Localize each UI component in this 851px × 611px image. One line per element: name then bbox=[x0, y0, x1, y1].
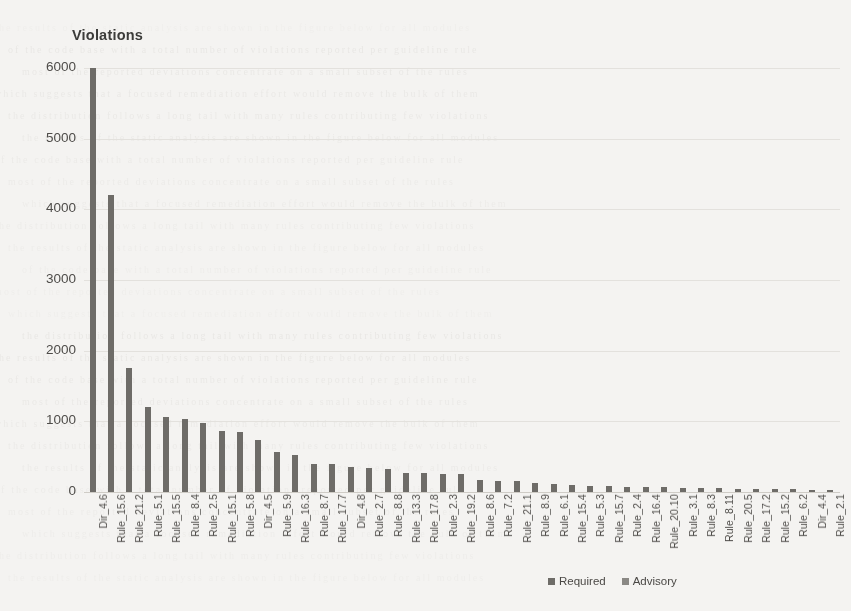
bar-Rule_17.2 bbox=[753, 489, 759, 492]
x-tick-Rule_2.7: Rule_2.7 bbox=[373, 494, 385, 537]
x-tick-Dir_4.6: Dir_4.6 bbox=[97, 494, 109, 529]
plot-area bbox=[84, 68, 840, 492]
x-tick-Rule_8.7: Rule_8.7 bbox=[318, 494, 330, 537]
x-tick-Dir_4.5: Dir_4.5 bbox=[262, 494, 274, 529]
x-tick-Rule_17.7: Rule_17.7 bbox=[336, 494, 348, 543]
bar-Rule_8.6 bbox=[477, 480, 483, 492]
bar-Rule_17.7 bbox=[329, 464, 335, 492]
x-tick-Rule_2.3: Rule_2.3 bbox=[447, 494, 459, 537]
bar-Rule_2.3 bbox=[440, 474, 446, 492]
x-tick-Rule_5.3: Rule_5.3 bbox=[594, 494, 606, 537]
bar-Rule_15.7 bbox=[606, 486, 612, 492]
y-tick-5000: 5000 bbox=[14, 130, 76, 145]
bar-Rule_5.8 bbox=[237, 432, 243, 492]
x-tick-Rule_17.2: Rule_17.2 bbox=[760, 494, 772, 543]
x-tick-Rule_16.4: Rule_16.4 bbox=[650, 494, 662, 543]
x-tick-Rule_8.11: Rule_8.11 bbox=[723, 494, 735, 542]
bar-Rule_15.2 bbox=[772, 489, 778, 492]
bar-Rule_7.2 bbox=[495, 481, 501, 492]
bar-Rule_21.1 bbox=[514, 481, 520, 492]
y-tick-4000: 4000 bbox=[14, 200, 76, 215]
x-tick-Rule_21.2: Rule_21.2 bbox=[133, 494, 145, 543]
bar-Rule_3.1 bbox=[680, 488, 686, 492]
x-tick-Rule_21.1: Rule_21.1 bbox=[521, 494, 533, 543]
x-tick-Rule_17.8: Rule_17.8 bbox=[428, 494, 440, 543]
bar-Dir_4.8 bbox=[348, 467, 354, 492]
bar-Rule_15.5 bbox=[163, 417, 169, 492]
x-tick-Rule_13.3: Rule_13.3 bbox=[410, 494, 422, 543]
y-tick-2000: 2000 bbox=[14, 342, 76, 357]
x-tick-Rule_19.2: Rule_19.2 bbox=[465, 494, 477, 543]
bar-Rule_2.7 bbox=[366, 468, 372, 492]
bar-Rule_6.1 bbox=[551, 484, 557, 492]
bar-Rule_2.5 bbox=[200, 423, 206, 492]
x-tick-Rule_15.7: Rule_15.7 bbox=[613, 494, 625, 543]
bar-Rule_8.8 bbox=[385, 469, 391, 492]
x-tick-Rule_20.5: Rule_20.5 bbox=[742, 494, 754, 543]
bar-Rule_2.4 bbox=[624, 487, 630, 492]
bar-Rule_15.4 bbox=[569, 485, 575, 492]
y-tick-3000: 3000 bbox=[14, 271, 76, 286]
bar-Rule_5.3 bbox=[587, 486, 593, 493]
bar-Rule_8.4 bbox=[182, 419, 188, 492]
x-tick-Rule_15.5: Rule_15.5 bbox=[170, 494, 182, 543]
x-tick-Rule_5.9: Rule_5.9 bbox=[281, 494, 293, 537]
x-tick-Rule_5.8: Rule_5.8 bbox=[244, 494, 256, 537]
bar-Rule_16.3 bbox=[292, 455, 298, 492]
x-tick-Rule_8.9: Rule_8.9 bbox=[539, 494, 551, 537]
x-tick-Dir_4.8: Dir_4.8 bbox=[355, 494, 367, 529]
bar-Rule_5.1 bbox=[145, 407, 151, 492]
y-tick-6000: 6000 bbox=[14, 59, 76, 74]
x-tick-Rule_15.2: Rule_15.2 bbox=[779, 494, 791, 543]
bar-Rule_20.5 bbox=[735, 489, 741, 492]
x-tick-Rule_6.1: Rule_6.1 bbox=[558, 494, 570, 537]
y-tick-1000: 1000 bbox=[14, 412, 76, 427]
x-tick-Rule_2.5: Rule_2.5 bbox=[207, 494, 219, 537]
bar-Rule_17.8 bbox=[421, 473, 427, 492]
legend-swatch-required bbox=[548, 578, 555, 585]
bar-Rule_6.2 bbox=[790, 489, 796, 492]
bars-group bbox=[84, 68, 840, 492]
x-tick-Rule_15.4: Rule_15.4 bbox=[576, 494, 588, 543]
legend-item-advisory: Advisory bbox=[622, 575, 677, 587]
bar-Dir_4.6 bbox=[90, 68, 96, 492]
bar-Rule_5.9 bbox=[274, 452, 280, 492]
bar-Rule_2.1 bbox=[827, 490, 833, 492]
x-tick-Dir_4.4: Dir_4.4 bbox=[816, 494, 828, 529]
bar-Dir_4.5 bbox=[255, 440, 261, 492]
x-tick-Rule_2.1: Rule_2.1 bbox=[834, 494, 846, 537]
bar-Rule_8.7 bbox=[311, 464, 317, 492]
bar-Rule_15.1 bbox=[219, 431, 225, 492]
x-tick-Rule_7.2: Rule_7.2 bbox=[502, 494, 514, 537]
bar-Rule_21.2 bbox=[126, 368, 132, 492]
x-tick-Rule_8.8: Rule_8.8 bbox=[392, 494, 404, 537]
legend-label-required: Required bbox=[559, 575, 606, 587]
x-tick-Rule_15.6: Rule_15.6 bbox=[115, 494, 127, 543]
bar-Rule_8.9 bbox=[532, 483, 538, 492]
gridline-0 bbox=[84, 492, 840, 493]
bar-Rule_19.2 bbox=[458, 474, 464, 492]
y-tick-0: 0 bbox=[14, 483, 76, 498]
bar-Rule_13.3 bbox=[403, 473, 409, 492]
x-axis-tick-labels: Dir_4.6Rule_15.6Rule_21.2Rule_5.1Rule_15… bbox=[84, 494, 840, 580]
bar-Rule_20.10 bbox=[661, 487, 667, 492]
bar-Rule_8.3 bbox=[698, 488, 704, 492]
x-tick-Rule_8.3: Rule_8.3 bbox=[705, 494, 717, 537]
bar-Rule_15.6 bbox=[108, 195, 114, 492]
bar-Rule_8.11 bbox=[716, 488, 722, 492]
violations-bar-chart: Violations 0100020003000400050006000 Dir… bbox=[0, 0, 851, 611]
legend-item-required: Required bbox=[548, 575, 606, 587]
x-tick-Rule_8.4: Rule_8.4 bbox=[189, 494, 201, 537]
x-tick-Rule_5.1: Rule_5.1 bbox=[152, 494, 164, 537]
x-tick-Rule_6.2: Rule_6.2 bbox=[797, 494, 809, 537]
x-tick-Rule_15.1: Rule_15.1 bbox=[226, 494, 238, 543]
x-tick-Rule_8.6: Rule_8.6 bbox=[484, 494, 496, 537]
bar-Dir_4.4 bbox=[809, 490, 815, 492]
legend-label-advisory: Advisory bbox=[633, 575, 677, 587]
chart-title: Violations bbox=[72, 27, 143, 43]
chart-legend: Required Advisory bbox=[548, 575, 677, 587]
x-tick-Rule_20.10: Rule_20.10 bbox=[668, 494, 680, 549]
x-tick-Rule_16.3: Rule_16.3 bbox=[299, 494, 311, 543]
x-tick-Rule_2.4: Rule_2.4 bbox=[631, 494, 643, 537]
bar-Rule_16.4 bbox=[643, 487, 649, 492]
